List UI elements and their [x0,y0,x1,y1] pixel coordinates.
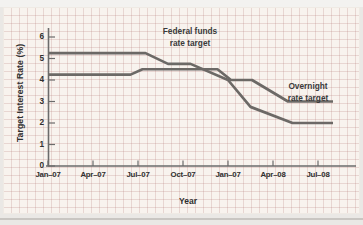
x-tick-label: Jul–07 [118,170,158,179]
y-tick-label: 4 [27,75,44,84]
series-label-federal-funds: Federal funds rate target [150,26,230,49]
series-label-overnight-rate: Overnight rate target [268,81,348,104]
x-tick-label: Jul–08 [298,170,338,179]
x-tick-label: Apr–08 [253,170,293,179]
y-tick-label: 5 [27,54,44,63]
y-tick-label: 0 [27,161,44,170]
y-tick-label: 3 [27,97,44,106]
y-tick-label: 6 [27,32,44,41]
x-tick-label: Jan–07 [208,170,248,179]
x-tick-label: Jan–07 [28,170,68,179]
x-tick-label: Oct–07 [163,170,203,179]
y-tick-label: 1 [27,140,44,149]
y-tick-label: 2 [27,118,44,127]
y-axis-title: Target Interest Rate (%) [15,44,25,142]
textbook-figure: Target Interest Rate (%) Year Federal fu… [0,0,363,225]
x-axis-title: Year [158,196,218,206]
x-tick-label: Apr–07 [73,170,113,179]
